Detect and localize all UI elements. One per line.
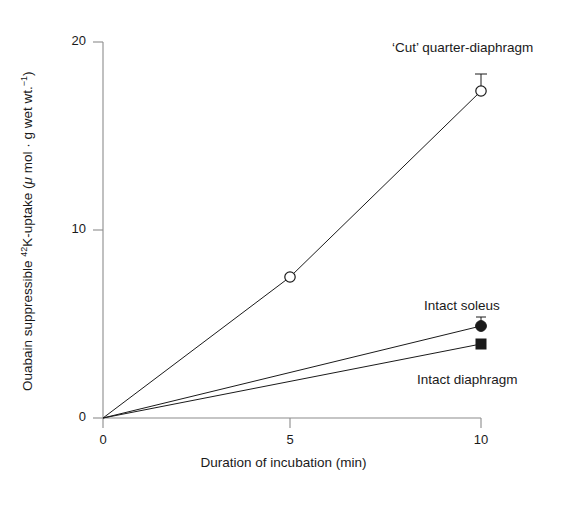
y-axis-title: Ouabain suppressible 42K-uptake (μ mol ·…: [19, 11, 36, 451]
y-axis-title-isotope: 42: [19, 247, 29, 257]
y-axis-title-middle: K-uptake (: [20, 184, 35, 246]
y-axis-title-suffix: ): [20, 71, 35, 76]
chart-canvas: [0, 0, 567, 506]
data-point-cut-5: [285, 272, 295, 282]
x-tick-label-0: 0: [83, 432, 123, 447]
data-point-diaphragm-10: [476, 339, 486, 349]
annotation-cut-quarter-diaphragm: ‘Cut’ quarter-diaphragm: [392, 40, 533, 55]
data-point-soleus-10: [476, 321, 487, 332]
data-point-cut-10: [476, 86, 486, 96]
y-axis-title-exponent: −1: [19, 76, 29, 86]
x-tick-label-10: 10: [461, 432, 501, 447]
annotation-intact-soleus: Intact soleus: [424, 298, 500, 313]
y-axis-title-prefix: Ouabain suppressible: [20, 257, 35, 391]
y-axis-title-wrapper: Ouabain suppressible 42K-uptake (μ mol ·…: [0, 0, 60, 506]
y-axis-title-units: mol · g wet wt.: [20, 86, 35, 177]
annotation-intact-diaphragm: Intact diaphragm: [417, 372, 518, 387]
series-line-cut-quarter-diaphragm: [103, 91, 481, 418]
x-axis-title: Duration of incubation (min): [0, 455, 567, 470]
figure-container: 20 10 0 0 5 10 ‘Cut’ quarter-diaphragm I…: [0, 0, 567, 506]
x-tick-label-5: 5: [270, 432, 310, 447]
y-axis-title-mu: μ: [20, 177, 35, 184]
